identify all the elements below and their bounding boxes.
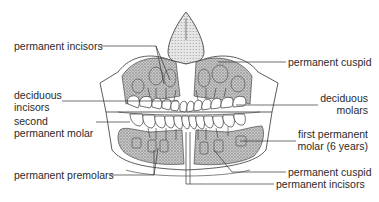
label-text: molar (6 years) (297, 140, 368, 152)
label-text: permanent incisors (276, 178, 365, 190)
label-text: permanent cuspid (288, 166, 371, 178)
label-text: second (14, 115, 93, 127)
label-deciduous-molars: deciduous molars (320, 92, 368, 116)
label-text: permanent cuspid (288, 56, 371, 68)
lower-bone-left (118, 128, 184, 164)
label-text: permanent incisors (14, 40, 103, 52)
label-permanent-incisors-top: permanent incisors (14, 40, 103, 52)
label-permanent-premolars: permanent premolars (14, 169, 114, 181)
label-second-permanent-molar: second permanent molar (14, 115, 93, 139)
label-text: permanent molar (14, 127, 93, 139)
label-text: deciduous (14, 89, 62, 101)
label-permanent-cuspid-top: permanent cuspid (288, 56, 371, 68)
dental-diagram: permanent incisors deciduous incisors se… (0, 0, 379, 202)
label-first-permanent-molar: first permanent molar (6 years) (297, 128, 368, 152)
label-text: molars (320, 104, 368, 116)
label-permanent-incisors-bottom: permanent incisors (276, 178, 365, 190)
lower-deciduous-teeth (130, 114, 245, 129)
label-permanent-cuspid-bottom: permanent cuspid (288, 166, 371, 178)
label-text: permanent premolars (14, 169, 114, 181)
label-text: first permanent (297, 128, 368, 140)
label-text: deciduous (320, 92, 368, 104)
label-text: incisors (14, 101, 62, 113)
label-deciduous-incisors: deciduous incisors (14, 89, 62, 113)
